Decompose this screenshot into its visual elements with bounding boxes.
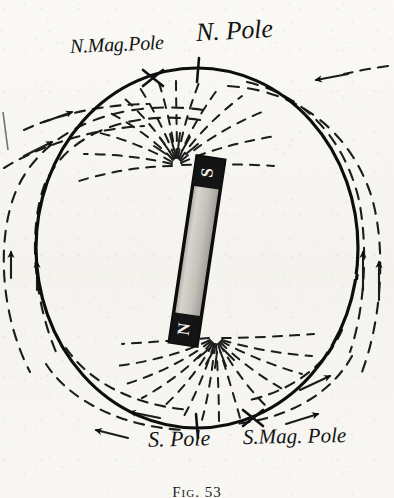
field-line-top-right-tail	[344, 66, 388, 74]
fan-top-short-ray	[182, 137, 190, 151]
label-south-magnetic-pole: S.Mag. Pole	[243, 425, 347, 448]
fan-top-ray	[176, 78, 177, 158]
label-north-magnetic-pole: N.Mag.Pole	[70, 32, 164, 56]
fan-bottom-short-ray	[198, 348, 210, 358]
field-fan-bottom	[116, 334, 314, 424]
fan-bottom-ray	[142, 342, 212, 398]
field-line-arrow-top-right	[316, 74, 348, 80]
fan-bottom-ray	[221, 341, 302, 374]
fan-top-short-ray	[178, 133, 180, 149]
field-line-bottom-left	[46, 364, 186, 430]
fan-bottom-short-ray	[220, 351, 226, 366]
field-line-arrow-bottom-left	[96, 430, 128, 438]
figure-caption-number: 53	[205, 484, 222, 498]
fan-top-ray	[76, 166, 172, 182]
label-north-geographic-pole: N. Pole	[195, 16, 273, 46]
north-geographic-pole-tick	[197, 58, 199, 82]
figure-caption-prefix: Fig.	[172, 484, 200, 498]
bar-magnet: S N	[169, 156, 224, 346]
field-line-arrow-bottom-right	[286, 414, 318, 424]
fan-bottom-ray	[222, 334, 314, 338]
ink-speck	[3, 112, 8, 150]
label-south-geographic-pole: S. Pole	[148, 427, 211, 451]
figure-container: S N N.Mag.Pole N. Pole S. Pole S.Mag. Po…	[0, 0, 394, 498]
field-line-arrow-left-upper-b	[24, 142, 52, 156]
figure-caption: Fig. 53	[0, 484, 394, 498]
fan-bottom-ray	[202, 344, 215, 420]
field-line-arrow-left-upper-a	[44, 112, 72, 122]
fan-top-ray	[84, 154, 172, 164]
